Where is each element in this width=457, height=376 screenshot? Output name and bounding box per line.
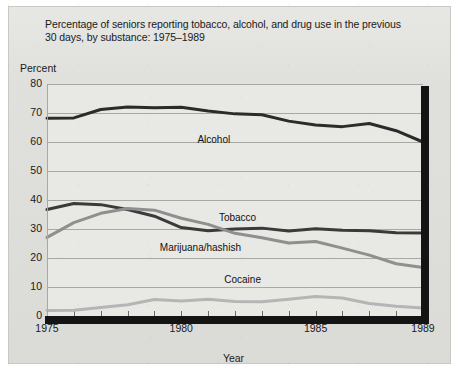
x-axis-line (45, 316, 429, 324)
x-axis-title-text: Year (223, 352, 244, 364)
y-tick-label: 10 (16, 280, 42, 292)
y-tick-label: 80 (16, 77, 42, 89)
x-axis-title: Year (0, 352, 457, 364)
series-label-marijuana-hashish: Marijuana/hashish (160, 242, 241, 253)
x-tick-label: 1975 (35, 322, 58, 334)
right-axis-bar (421, 86, 429, 320)
y-tick-label: 70 (16, 106, 42, 118)
series-label-tobacco: Tobacco (219, 212, 256, 223)
series-label-alcohol: Alcohol (197, 134, 230, 145)
x-tick-label: 1985 (304, 322, 327, 334)
series-line-cocaine (47, 297, 423, 311)
figure-canvas: Percentage of seniors reporting tobacco,… (0, 0, 457, 376)
y-tick-label: 50 (16, 164, 42, 176)
y-axis-title: Percent (20, 62, 56, 74)
x-tick-label: 1980 (170, 322, 193, 334)
y-tick-label: 40 (16, 193, 42, 205)
y-tick-label: 0 (16, 309, 42, 321)
chart-title: Percentage of seniors reporting tobacco,… (45, 18, 415, 44)
y-tick-labels-group: 01020304050607080 (14, 84, 42, 316)
x-tick-label: 1989 (411, 322, 434, 334)
y-axis-line (47, 84, 48, 316)
series-label-cocaine: Cocaine (224, 274, 261, 285)
y-tick-label: 20 (16, 251, 42, 263)
y-tick-label: 30 (16, 222, 42, 234)
y-tick-label: 60 (16, 135, 42, 147)
series-line-alcohol (47, 107, 423, 142)
